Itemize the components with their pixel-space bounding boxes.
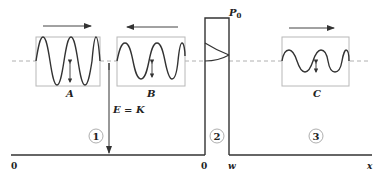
wave-a-curve bbox=[36, 37, 100, 85]
wave-b-label: B bbox=[146, 88, 155, 99]
svg-text:3: 3 bbox=[313, 131, 320, 142]
energy-arrow: E = K bbox=[109, 63, 146, 153]
wave-b-curve bbox=[117, 43, 185, 79]
origin-label: 0 bbox=[11, 161, 17, 171]
svg-text:2: 2 bbox=[214, 131, 221, 142]
x-axis: 0 0 w x bbox=[11, 155, 373, 171]
barrier-decay-curve bbox=[205, 43, 229, 55]
svg-text:1: 1 bbox=[93, 131, 100, 142]
wave-c-box bbox=[282, 37, 349, 86]
barrier-end-label: w bbox=[228, 161, 236, 171]
wave-c-curve bbox=[282, 50, 349, 72]
wave-b-group: B bbox=[117, 27, 185, 99]
wave-c-label: C bbox=[313, 88, 321, 99]
region-label-1: 1 bbox=[89, 129, 103, 143]
barrier-start-label: 0 bbox=[201, 161, 207, 171]
energy-label: E = K bbox=[112, 104, 146, 115]
region-label-3: 3 bbox=[309, 129, 323, 143]
wave-a-box bbox=[36, 37, 100, 86]
wave-a-label: A bbox=[65, 88, 74, 99]
tunneling-diagram: A B P0 C E = K 1 2 3 bbox=[0, 0, 382, 180]
wave-c-group: C bbox=[282, 28, 349, 99]
x-axis-label: x bbox=[366, 161, 373, 171]
barrier-decay-curve-lower bbox=[205, 55, 229, 61]
wave-a-group: A bbox=[36, 26, 100, 99]
region-label-2: 2 bbox=[210, 129, 224, 143]
barrier-label: P0 bbox=[228, 7, 242, 20]
